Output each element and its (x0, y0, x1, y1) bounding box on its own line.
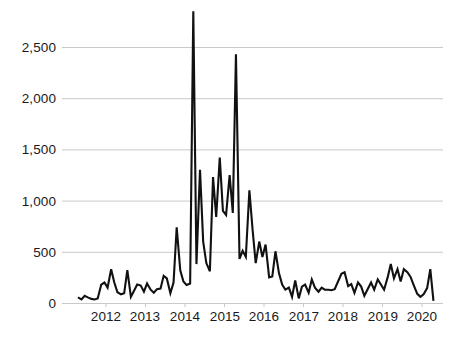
x-tick-label: 2016 (249, 309, 279, 324)
x-tick-label: 2014 (170, 309, 200, 324)
x-tick-label: 2013 (130, 309, 160, 324)
plot-svg (62, 0, 443, 342)
plot-area (62, 0, 443, 342)
y-tick-label: 1,500 (22, 142, 56, 157)
x-tick-label: 2018 (328, 309, 358, 324)
y-tick-label: 2,000 (22, 91, 56, 106)
x-tick-label: 2019 (368, 309, 398, 324)
line-chart: 2,500 2,000 1,500 1,000 500 0 2012 2013 … (0, 0, 463, 342)
x-tick-label: 2017 (289, 309, 319, 324)
x-tick-label: 2015 (210, 309, 240, 324)
y-axis-labels: 2,500 2,000 1,500 1,000 500 0 (0, 0, 56, 342)
y-tick-label: 500 (33, 245, 56, 260)
y-tick-label: 1,000 (22, 194, 56, 209)
x-tick-label: 2012 (91, 309, 121, 324)
series-line (78, 11, 434, 301)
x-axis-labels: 2012 2013 2014 2015 2016 2017 2018 2019 … (0, 309, 463, 333)
y-tick-label: 2,500 (22, 40, 56, 55)
gridlines (62, 48, 443, 308)
x-tick-label: 2020 (407, 309, 437, 324)
